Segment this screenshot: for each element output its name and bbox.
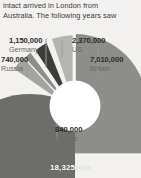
article-body-text: intact arrived in London from Australia.… (3, 1, 139, 21)
slice-separator-right (75, 153, 141, 156)
label-russia: 740,000 Russia (1, 56, 28, 73)
label-total: 18,325,000 (0, 163, 141, 172)
article-line-2: Australia. The following years saw (3, 11, 139, 21)
label-france: 840,000 France (55, 125, 82, 143)
label-us-country: US (72, 46, 105, 55)
article-line-1: intact arrived in London from (3, 1, 139, 11)
label-germany-country: Germany (9, 46, 42, 55)
label-britain-country: Britain (90, 65, 123, 74)
label-britain: 7,010,000 Britain (90, 56, 123, 73)
label-us: 2,370,000 US (72, 37, 105, 54)
chart-figure: intact arrived in London from Australia.… (0, 0, 141, 178)
label-france-country: France (55, 134, 82, 143)
label-russia-country: Russia (1, 65, 28, 74)
label-france-value: 840,000 (55, 125, 82, 134)
label-germany: 1,150,000 Germany (9, 37, 42, 54)
